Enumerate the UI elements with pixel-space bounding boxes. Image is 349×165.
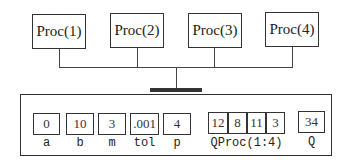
connector-3	[214, 48, 215, 68]
cell-value: 10	[74, 116, 87, 132]
connector-1	[59, 49, 60, 68]
processor-label: Proc(1)	[37, 23, 82, 40]
cell-value: 12	[212, 115, 225, 131]
cell-value: 8	[234, 115, 241, 131]
qproc-cell-3: 11	[247, 112, 266, 134]
qproc-cell-2: 8	[228, 112, 247, 134]
var-q-label: Q	[298, 135, 325, 149]
processor-2: Proc(2)	[110, 13, 164, 48]
bus-drop	[176, 67, 177, 89]
cell-value: .001	[133, 116, 156, 132]
var-q-cell: 34	[298, 111, 325, 133]
var-p-label: p	[163, 136, 191, 150]
cell-value: 0	[43, 116, 50, 132]
cell-value: 3	[109, 116, 116, 132]
var-p-cell: 4	[163, 113, 191, 135]
var-b-label: b	[66, 136, 94, 150]
var-m-cell: 3	[98, 113, 126, 135]
var-a-cell: 0	[33, 113, 60, 135]
cell-value: 11	[250, 115, 263, 131]
var-m-label: m	[98, 136, 126, 150]
cell-value: 34	[305, 114, 318, 130]
processor-1: Proc(1)	[32, 14, 86, 49]
processor-4: Proc(4)	[265, 12, 319, 47]
qproc-cell-1: 12	[208, 112, 228, 134]
connector-4	[292, 47, 293, 68]
var-qproc-label: QProc(1:4)	[208, 136, 285, 150]
cell-value: 3	[272, 115, 279, 131]
var-b-cell: 10	[66, 113, 94, 135]
processor-label: Proc(4)	[270, 21, 315, 38]
qproc-cell-4: 3	[266, 112, 285, 134]
var-tol-cell: .001	[130, 113, 159, 135]
var-a-label: a	[33, 136, 60, 150]
processor-label: Proc(2)	[115, 22, 160, 39]
connector-2	[137, 48, 138, 68]
processor-label: Proc(3)	[193, 22, 238, 39]
memory-port-bar	[150, 88, 202, 92]
processor-3: Proc(3)	[188, 13, 242, 48]
cell-value: 4	[174, 116, 181, 132]
var-tol-label: tol	[128, 136, 161, 150]
